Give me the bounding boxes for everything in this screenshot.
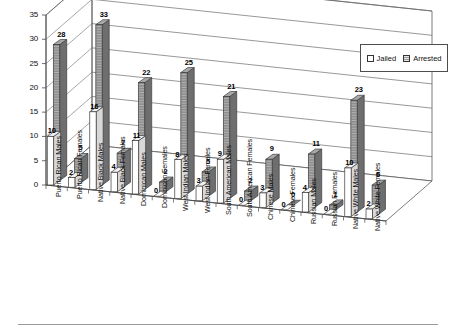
bar-value-label-jailed: 3 (260, 184, 264, 192)
y-axis-tick-label: 20 (18, 84, 38, 92)
bar-value-label-jailed: 2 (69, 169, 73, 177)
bar-value-label-jailed: 9 (218, 150, 222, 158)
x-axis-category-label: Native White Females (374, 162, 382, 230)
x-axis-category-label: South American Females (246, 139, 254, 217)
bar-value-label-jailed: 16 (90, 103, 98, 111)
x-axis-category-label: Chinese Females (289, 167, 297, 221)
bar-value-label-jailed: 8 (175, 151, 179, 159)
x-axis-category-label: West Indian Males (182, 153, 190, 210)
bar-value-label-jailed: 3 (197, 177, 201, 185)
bar-value-label-arrested: 33 (100, 11, 108, 19)
bar-value-label-arrested: 25 (185, 59, 193, 67)
x-axis-category-label: Dominican Males (140, 152, 148, 206)
x-axis-category-label: Native Black Females (119, 136, 127, 204)
bar-value-label-jailed: 10 (345, 159, 353, 167)
bar-value-label-jailed: 11 (133, 132, 140, 140)
legend-label-arrested: Arrested (413, 54, 441, 63)
footer-divider (18, 324, 438, 325)
y-axis-tick-label: 10 (18, 132, 38, 140)
x-axis-category-label: Dominican Females (161, 146, 169, 208)
y-axis-tick-label: 30 (18, 35, 38, 43)
chart-legend: Jailed Arrested (360, 44, 448, 72)
bar-value-label-jailed: 10 (48, 127, 56, 135)
x-axis-category-label: Russian Females (331, 172, 339, 226)
bar-value-label-jailed: 4 (112, 163, 116, 171)
y-axis-tick-label: 15 (18, 108, 38, 116)
bar-value-label-arrested: 11 (312, 140, 319, 148)
bar-value-label-arrested: 9 (270, 145, 274, 153)
bar-value-label-jailed: 2 (367, 200, 371, 208)
x-axis-category-label: Russian Males (310, 178, 318, 224)
bar-value-label-arrested: 23 (355, 86, 363, 94)
bar-value-label-jailed: 0 (239, 196, 243, 204)
y-axis-tick-label: 0 (18, 181, 38, 189)
bar-value-label-arrested: 22 (142, 69, 150, 77)
chart-page: 0510152025303528105233167422112025853219… (0, 0, 455, 336)
x-axis-category-label: South American Males (225, 145, 233, 215)
y-axis-tick-label: 25 (18, 60, 38, 68)
legend-entry-jailed: Jailed (367, 54, 397, 63)
legend-swatch-arrested-icon (403, 55, 410, 62)
x-axis-category-label: Native White Males (352, 168, 360, 228)
bar-value-label-jailed: 0 (282, 201, 286, 209)
bar-value-label-arrested: 28 (57, 31, 65, 39)
legend-entry-arrested: Arrested (403, 54, 441, 63)
x-axis-category-label: Chinese Males (267, 173, 275, 219)
y-axis-tick-label: 5 (18, 157, 38, 165)
x-axis-category-label: Puerto Rican Females (76, 130, 84, 199)
legend-label-jailed: Jailed (377, 54, 397, 63)
bar-value-label-jailed: 0 (324, 205, 328, 213)
legend-swatch-jailed-icon (367, 55, 374, 62)
bar-value-label-arrested: 21 (227, 83, 235, 91)
y-axis-tick-label: 35 (18, 11, 38, 19)
x-axis-category-label: Puerto Rican Males (55, 136, 63, 197)
x-axis-category-label: West Indian Females (204, 147, 212, 212)
bar-value-label-jailed: 0 (154, 187, 158, 195)
bar-value-label-jailed: 4 (303, 184, 307, 192)
x-axis-category-label: Native Black Males (97, 142, 105, 201)
